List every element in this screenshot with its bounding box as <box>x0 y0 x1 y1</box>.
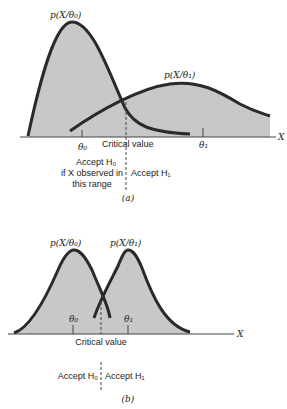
x-axis-label: X <box>277 132 285 142</box>
pdf-h0-label: p(X/θ₀) <box>50 10 82 20</box>
hypothesis-test-diagram: p(X/θ₀) p(X/θ₁) θ₀ Critical value θ₁ X A… <box>0 0 287 409</box>
figure-a: p(X/θ₀) p(X/θ₁) θ₀ Critical value θ₁ X A… <box>20 10 285 203</box>
accept-h0-label: Accept H₀ <box>58 371 99 381</box>
theta0-label: θ₀ <box>78 142 87 152</box>
pdf-h1-label: p(X/θ₁) <box>110 238 142 248</box>
accept-h0-line3: this range <box>72 179 112 189</box>
accept-h1-label: Accept H₁ <box>105 371 145 381</box>
pdf-h1-label: p(X/θ₁) <box>164 70 196 80</box>
theta1-label: θ₁ <box>124 314 133 324</box>
x-axis-label: X <box>236 329 244 339</box>
accept-h1-label: Accept H₁ <box>131 168 171 178</box>
caption-b: (b) <box>122 394 135 404</box>
accept-h0-line2: if X observed in <box>61 168 123 178</box>
critical-value-label: Critical value <box>102 139 154 149</box>
figure-b: p(X/θ₀) p(X/θ₁) θ₀ θ₁ Critical value X A… <box>8 238 244 404</box>
pdf-h1-fill <box>94 250 190 334</box>
theta1-label: θ₁ <box>199 140 208 150</box>
accept-h0-line1: Accept H₀ <box>76 157 117 167</box>
caption-a: (a) <box>122 193 135 203</box>
critical-value-label: Critical value <box>75 337 127 347</box>
pdf-h0-label: p(X/θ₀) <box>50 238 82 248</box>
theta0-label: θ₀ <box>69 314 78 324</box>
